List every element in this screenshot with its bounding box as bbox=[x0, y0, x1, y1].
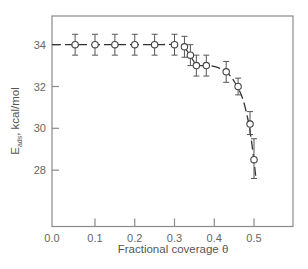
x-axis-ticks: 0.00.10.20.30.40.5 bbox=[44, 219, 261, 244]
open-circle-marker bbox=[112, 42, 118, 48]
fitted-curve bbox=[52, 44, 256, 178]
open-circle-marker bbox=[223, 69, 229, 75]
open-circle-marker bbox=[235, 83, 241, 89]
y-tick-label: 28 bbox=[34, 164, 46, 176]
y-tick-label: 30 bbox=[34, 122, 46, 134]
data-point bbox=[223, 61, 229, 82]
x-tick-label: 0.0 bbox=[44, 232, 59, 244]
x-tick-label: 0.1 bbox=[87, 232, 102, 244]
data-points bbox=[72, 34, 257, 178]
x-tick-label: 0.2 bbox=[127, 232, 142, 244]
data-point bbox=[72, 34, 78, 55]
y-axis-label-unit: , kcal/mol bbox=[9, 87, 21, 136]
open-circle-marker bbox=[181, 44, 187, 50]
data-point bbox=[181, 36, 187, 57]
data-point bbox=[203, 55, 209, 76]
data-point bbox=[187, 45, 193, 66]
open-circle-marker bbox=[193, 62, 199, 68]
y-axis-label: Eads, kcal/mol bbox=[9, 87, 23, 155]
y-tick-label: 32 bbox=[34, 81, 46, 93]
y-axis-ticks: 28303234 bbox=[34, 39, 59, 176]
open-circle-marker bbox=[151, 42, 157, 48]
x-axis-label: Fractional coverage θ bbox=[118, 243, 229, 255]
data-point bbox=[193, 55, 199, 76]
data-point bbox=[171, 34, 177, 55]
x-tick-label: 0.4 bbox=[207, 232, 222, 244]
data-point bbox=[132, 34, 138, 55]
open-circle-marker bbox=[247, 121, 253, 127]
open-circle-marker bbox=[92, 42, 98, 48]
open-circle-marker bbox=[251, 156, 257, 162]
open-circle-marker bbox=[72, 42, 78, 48]
data-point bbox=[112, 34, 118, 55]
y-tick-label: 34 bbox=[34, 39, 46, 51]
data-point bbox=[151, 34, 157, 55]
fitted-curve-path bbox=[52, 44, 256, 178]
x-tick-label: 0.5 bbox=[246, 232, 261, 244]
open-circle-marker bbox=[187, 52, 193, 58]
x-tick-label: 0.3 bbox=[167, 232, 182, 244]
chart: 0.00.10.20.30.40.5 28303234 Fractional c… bbox=[0, 0, 308, 269]
open-circle-marker bbox=[171, 42, 177, 48]
open-circle-marker bbox=[203, 62, 209, 68]
data-point bbox=[247, 112, 253, 135]
open-circle-marker bbox=[132, 42, 138, 48]
y-axis-label-sub: ads bbox=[16, 135, 23, 147]
data-point bbox=[92, 34, 98, 55]
